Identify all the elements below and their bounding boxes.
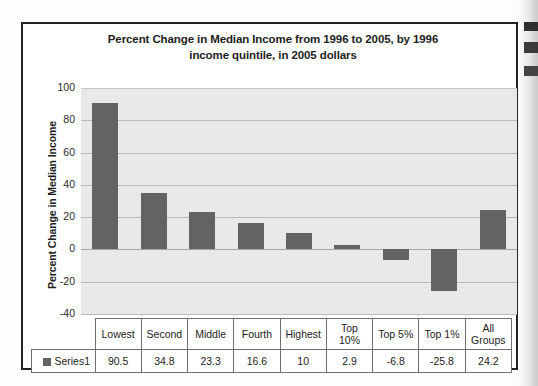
y-axis-tick-label: 0 xyxy=(31,242,75,254)
legend-series-cell: Series1 xyxy=(32,350,96,373)
scan-edge-shadow xyxy=(518,0,538,386)
table-header-text: Second xyxy=(147,328,183,340)
bar[interactable] xyxy=(141,193,167,249)
table-header-cell: Top 5% xyxy=(373,319,419,350)
gridline--40 xyxy=(81,314,517,315)
table-value-cell: 24.2 xyxy=(465,350,511,373)
table-value-cell: 23.3 xyxy=(188,350,234,373)
data-table: LowestSecondMiddleFourthHighestTop10%Top… xyxy=(31,318,512,373)
page-background: Percent Change in Median Income from 199… xyxy=(0,0,538,386)
table-value-cell: 90.5 xyxy=(95,350,141,373)
bar-slot-second xyxy=(129,88,177,314)
table-value-cell: 10 xyxy=(280,350,326,373)
table-header-text: Groups xyxy=(471,334,505,346)
bar[interactable] xyxy=(92,103,118,249)
legend-series-label: Series1 xyxy=(54,355,90,367)
chart-title-line-1: Percent Change in Median Income from 199… xyxy=(108,33,438,45)
table-header-cell: Middle xyxy=(188,319,234,350)
chart-frame: Percent Change in Median Income from 199… xyxy=(21,22,518,370)
bar[interactable] xyxy=(334,245,360,250)
bar[interactable] xyxy=(383,249,409,260)
table-value-cell: 34.8 xyxy=(141,350,187,373)
bar-series xyxy=(81,88,517,314)
table-header-cell: Second xyxy=(141,319,187,350)
bar-slot-top-5- xyxy=(372,88,420,314)
table-value-cell: -25.8 xyxy=(419,350,465,373)
table-value-cell: 2.9 xyxy=(326,350,372,373)
table-header-cell: AllGroups xyxy=(465,319,511,350)
table-header-cell: Lowest xyxy=(95,319,141,350)
table-row-values: Series1 90.534.823.316.6102.9-6.8-25.824… xyxy=(32,350,512,373)
y-axis-tick-label: 80 xyxy=(31,113,75,125)
bar-slot-middle xyxy=(178,88,226,314)
bar-slot-fourth xyxy=(226,88,274,314)
table-header-cell: Top10% xyxy=(326,319,372,350)
bar-slot-all-groups xyxy=(469,88,517,314)
plot-area: 100806040200-20-40 xyxy=(81,88,517,314)
bar[interactable] xyxy=(286,233,312,249)
table-header-text: Lowest xyxy=(101,328,134,340)
scan-edge-marks xyxy=(524,22,538,88)
table-header-text: Top xyxy=(341,322,358,334)
bar[interactable] xyxy=(431,249,457,291)
bar-slot-lowest xyxy=(81,88,129,314)
legend-swatch-icon xyxy=(43,358,51,366)
bar[interactable] xyxy=(238,223,264,250)
table-header-text: Top 1% xyxy=(424,328,459,340)
table-header-text: Fourth xyxy=(242,328,272,340)
table-header-cell: Fourth xyxy=(234,319,280,350)
table-header-text: Highest xyxy=(285,328,321,340)
bar[interactable] xyxy=(189,212,215,250)
table-header-text: Middle xyxy=(195,328,226,340)
table-value-cell: -6.8 xyxy=(373,350,419,373)
table-header-text: 10% xyxy=(339,334,360,346)
chart-title: Percent Change in Median Income from 199… xyxy=(63,31,483,63)
bar[interactable] xyxy=(480,210,506,249)
y-axis-tick-label: 40 xyxy=(31,178,75,190)
table-corner-cell xyxy=(32,319,96,350)
bar-slot-top-1- xyxy=(420,88,468,314)
table-value-cell: 16.6 xyxy=(234,350,280,373)
bar-slot-top-10- xyxy=(323,88,371,314)
y-axis-tick-label: 100 xyxy=(31,81,75,93)
table-row-categories: LowestSecondMiddleFourthHighestTop10%Top… xyxy=(32,319,512,350)
table-header-cell: Top 1% xyxy=(419,319,465,350)
bar-slot-highest xyxy=(275,88,323,314)
chart-title-line-2: income quintile, in 2005 dollars xyxy=(189,49,356,61)
table-header-text: Top 5% xyxy=(378,328,413,340)
table-header-cell: Highest xyxy=(280,319,326,350)
y-axis-tick-label: 60 xyxy=(31,146,75,158)
y-axis-tick-label: -20 xyxy=(31,275,75,287)
y-axis-tick-label: 20 xyxy=(31,210,75,222)
table-header-text: All xyxy=(482,322,494,334)
